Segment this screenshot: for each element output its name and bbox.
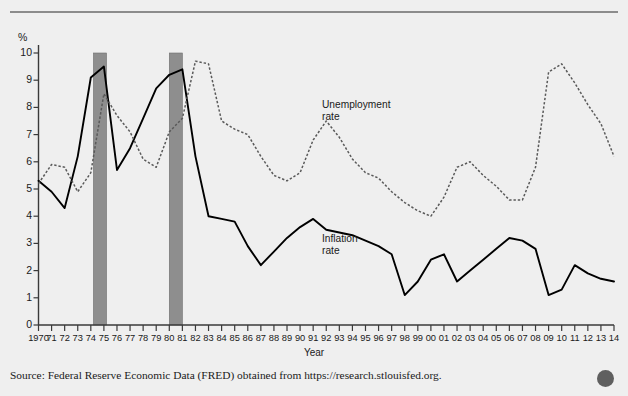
x-axis-tick-label: 88 — [269, 333, 279, 343]
x-axis-tick-label: 14 — [609, 333, 619, 343]
x-axis-tick-label: 10 — [557, 333, 567, 343]
x-axis-tick-label: 96 — [373, 333, 383, 343]
x-axis-tick-label: 91 — [308, 333, 318, 343]
y-axis-tick-label: 0 — [10, 318, 32, 330]
x-axis-tick-label: 89 — [282, 333, 292, 343]
x-axis-title: Year — [0, 347, 628, 358]
x-axis-tick-label: 83 — [203, 333, 213, 343]
x-axis-tick-label: 08 — [530, 333, 540, 343]
x-axis-tick-label: 72 — [59, 333, 69, 343]
x-axis-tick-label: 04 — [478, 333, 488, 343]
y-axis-tick-label: 2 — [10, 264, 32, 276]
x-axis-tick-label: 92 — [321, 333, 331, 343]
x-axis-tick-label: 12 — [583, 333, 593, 343]
x-axis-tick-label: 78 — [138, 333, 148, 343]
x-axis-tick-label: 00 — [426, 333, 436, 343]
y-axis-tick-label: 9 — [10, 73, 32, 85]
decorative-corner-dot — [597, 370, 614, 387]
x-axis-tick-label: 06 — [504, 333, 514, 343]
y-axis-tick-label: 8 — [10, 100, 32, 112]
y-axis-tick-label: 1 — [10, 291, 32, 303]
x-axis-tick-label: 73 — [73, 333, 83, 343]
x-axis-tick-label: 01 — [439, 333, 449, 343]
y-axis-tick-label: 6 — [10, 155, 32, 167]
x-axis-tick-label: 05 — [491, 333, 501, 343]
x-axis-tick-label: 03 — [465, 333, 475, 343]
y-axis-tick-label: 10 — [10, 46, 32, 58]
x-axis-tick-label: 82 — [190, 333, 200, 343]
recession-bar — [93, 53, 106, 325]
x-axis-tick-label: 87 — [256, 333, 266, 343]
x-axis-tick-label: 95 — [360, 333, 370, 343]
series-label-unemployment: Unemployment rate — [322, 99, 391, 122]
series-line-unemployment-rate — [39, 61, 615, 216]
x-axis-tick-label: 98 — [400, 333, 410, 343]
x-axis-tick-label: 93 — [334, 333, 344, 343]
y-axis-tick-label: 7 — [10, 128, 32, 140]
x-axis-tick-label: 86 — [243, 333, 253, 343]
x-axis-tick-label: 81 — [177, 333, 187, 343]
figure-container: % 012345678910 1970717273747576777879808… — [0, 0, 628, 396]
x-axis-tick-label: 90 — [295, 333, 305, 343]
x-axis-tick-label: 13 — [596, 333, 606, 343]
y-axis-tick-label: 4 — [10, 209, 32, 221]
x-axis-tick-label: 02 — [452, 333, 462, 343]
x-axis-tick-label: 97 — [386, 333, 396, 343]
x-axis-tick-label: 71 — [46, 333, 56, 343]
y-axis-tick-label: 3 — [10, 236, 32, 248]
x-axis-tick-label: 09 — [543, 333, 553, 343]
x-axis-tick-label: 07 — [517, 333, 527, 343]
x-axis-tick-label: 85 — [230, 333, 240, 343]
series-label-inflation: Inflation rate — [322, 233, 358, 256]
x-axis-tick-label: 76 — [112, 333, 122, 343]
y-axis-tick-label: 5 — [10, 182, 32, 194]
x-axis-tick-label: 79 — [151, 333, 161, 343]
x-axis-tick-label: 77 — [125, 333, 135, 343]
x-axis-tick-label: 11 — [570, 333, 580, 343]
recession-bar — [169, 53, 182, 325]
source-note: Source: Federal Reserve Economic Data (F… — [10, 369, 442, 381]
x-axis-tick-label: 99 — [413, 333, 423, 343]
x-axis-tick-label: 94 — [347, 333, 357, 343]
x-axis-tick-label: 74 — [86, 333, 96, 343]
x-axis-tick-label: 75 — [99, 333, 109, 343]
x-axis-tick-label: 80 — [164, 333, 174, 343]
x-axis-tick-label: 84 — [216, 333, 226, 343]
